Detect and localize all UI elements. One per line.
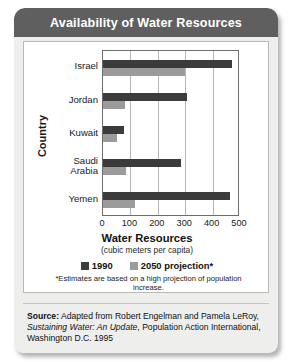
bar-saudi-arabia-2050 [103,167,126,175]
bar-israel-1990 [103,60,232,68]
x-axis-tick-labels: 0100200300400500 [102,218,239,230]
legend-label-2050: 2050 projection* [141,260,213,271]
y-tick-label: Yemen [42,194,98,204]
bar-saudi-arabia-1990 [103,159,181,167]
legend-item-1990: 1990 [81,260,113,271]
bar-group [103,60,238,76]
y-tick-label: Jordan [42,95,98,105]
x-tick-label: 300 [177,218,192,228]
bar-jordan-2050 [103,101,125,109]
y-tick-label: SaudiArabia [42,156,98,177]
y-axis-tick-labels: IsraelJordanKuwaitSaudiArabiaYemen [42,50,98,216]
legend-swatch-icon-2050 [130,262,138,270]
bar-yemen-2050 [103,200,135,208]
bar-kuwait-1990 [103,126,124,134]
bar-yemen-1990 [103,192,230,200]
y-tick-label: Israel [42,61,98,71]
page-title: Availability of Water Resources [50,16,242,30]
bar-israel-2050 [103,68,185,76]
figure-header: Availability of Water Resources [14,8,278,37]
source-part1: Adapted from Robert Engelman and Pamela … [59,311,259,321]
bar-group [103,126,238,142]
chart-card: Country IsraelJordanKuwaitSaudiArabiaYem… [23,41,269,293]
bar-group [103,192,238,208]
y-tick-label: Kuwait [42,128,98,138]
chart-footnote: *Estimates are based on a high projectio… [46,274,251,293]
source-label: Source: [27,311,59,321]
plot-area [102,50,239,216]
x-tick-label: 200 [149,218,164,228]
bar-kuwait-2050 [103,134,117,142]
legend-label-1990: 1990 [92,260,113,271]
x-axis-subtitle: (cubic meters per capita) [24,245,270,255]
figure-panel: Availability of Water Resources Country … [14,8,278,353]
bar-group [103,159,238,175]
source-divider [23,303,269,304]
x-tick-label: 100 [122,218,137,228]
x-tick-label: 400 [204,218,219,228]
x-tick-label: 0 [99,218,104,228]
source-citation: Source: Adapted from Robert Engelman and… [27,311,267,345]
source-title-italic: Sustaining Water: An Update [27,322,137,332]
legend-item-2050: 2050 projection* [130,260,213,271]
chart-legend: 1990 2050 projection* [24,260,270,271]
x-tick-label: 500 [231,218,246,228]
x-axis-title: Water Resources [24,232,270,244]
bar-jordan-1990 [103,93,187,101]
bar-group [103,93,238,109]
legend-swatch-icon-1990 [81,262,89,270]
